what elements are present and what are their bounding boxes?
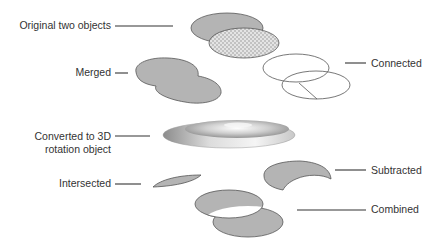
- intersected-shape: [153, 175, 201, 187]
- connected-shape: [263, 54, 350, 99]
- label-merged: Merged: [75, 66, 111, 79]
- label-converted-line2: rotation object: [35, 143, 111, 156]
- combined-shape: [195, 190, 283, 237]
- label-original: Original two objects: [19, 19, 111, 32]
- merged-shape: [136, 58, 221, 103]
- rotation-object-3d: [163, 120, 295, 148]
- label-intersected: Intersected: [59, 177, 111, 190]
- label-converted: Converted to 3D rotation object: [35, 130, 111, 156]
- label-combined: Combined: [371, 203, 419, 216]
- label-connected: Connected: [371, 57, 422, 70]
- label-subtracted: Subtracted: [371, 164, 422, 177]
- label-converted-line1: Converted to 3D: [35, 130, 111, 143]
- subtracted-shape: [264, 161, 331, 190]
- original-objects: [191, 13, 279, 58]
